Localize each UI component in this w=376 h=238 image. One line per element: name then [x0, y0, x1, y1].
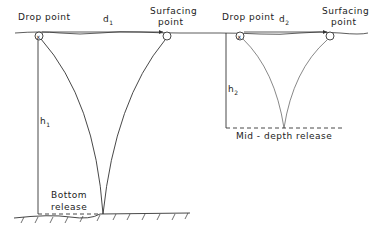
left-release-label-2: release [51, 202, 87, 212]
right-scenario: Drop point d2 Surfacing point x h2 Mid -… [222, 6, 369, 141]
right-height-label: h2 [228, 84, 239, 96]
right-surfacing-marker-icon [326, 32, 334, 40]
svg-text:x: x [238, 33, 242, 40]
sea-bottom-hatch [21, 213, 188, 223]
right-ascent-path [284, 40, 327, 128]
left-distance-label: d1 [103, 14, 114, 26]
left-surfacing-marker-icon [163, 32, 171, 40]
left-scenario: Drop point d1 Surfacing point x h1 Botto… [14, 6, 197, 223]
left-surfacing-label-2: point [158, 17, 183, 27]
left-height-label: h1 [40, 116, 51, 128]
svg-text:x: x [37, 33, 41, 40]
left-ascent-path [103, 40, 165, 214]
right-drop-label: Drop point [222, 12, 274, 22]
left-release-label-1: Bottom [51, 190, 87, 200]
right-distance-label: d2 [279, 14, 290, 26]
right-release-label: Mid - depth release [236, 131, 332, 141]
left-surfacing-label-1: Surfacing [150, 6, 197, 16]
drift-trajectory-diagram: Drop point d1 Surfacing point x h1 Botto… [0, 0, 376, 238]
right-descent-path [243, 39, 284, 128]
right-surfacing-label-1: Surfacing [322, 6, 369, 16]
left-drop-label: Drop point [18, 12, 70, 22]
right-surfacing-label-2: point [331, 17, 356, 27]
